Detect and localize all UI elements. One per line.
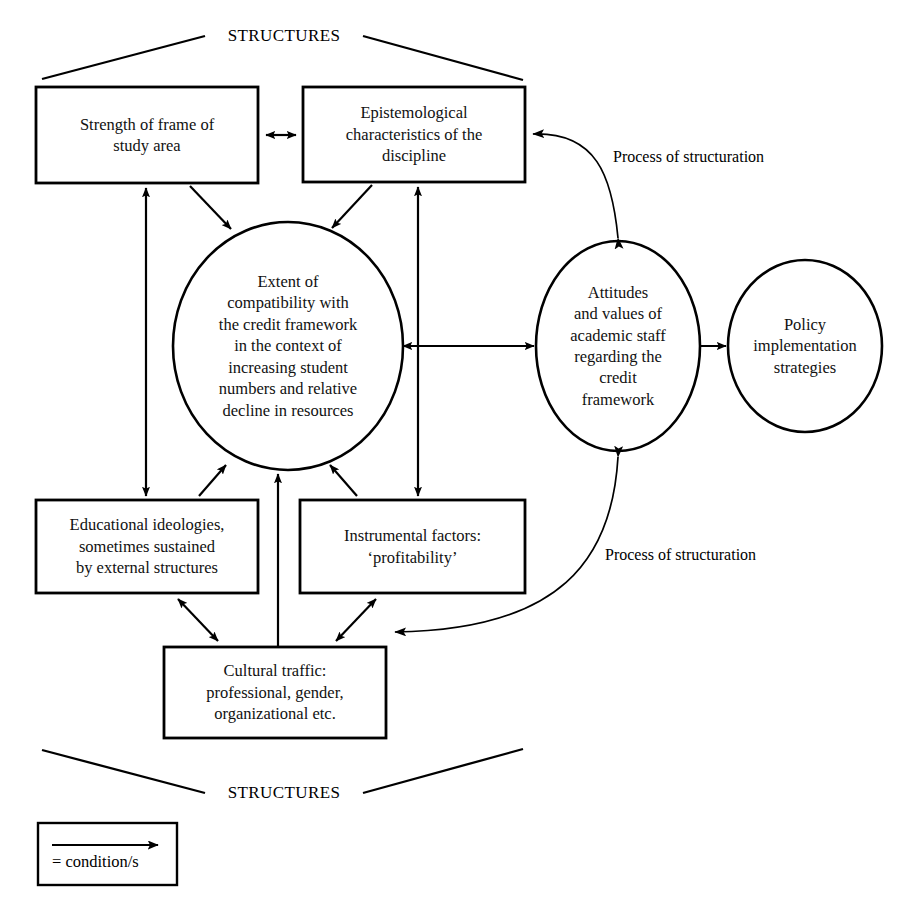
box-label-strength-of-frame: Strength of frame of study area <box>36 87 258 183</box>
bottom-structures-label: STRUCTURES <box>205 783 363 803</box>
edge-label-process-lower: Process of structuration <box>605 546 756 564</box>
ellipse-label-extent-of-compatibility: Extent of compatibility with the credit … <box>173 222 403 470</box>
box-label-educational-ideologies: Educational ideologies, sometimes sustai… <box>36 500 258 593</box>
edge-cultural-educational <box>178 599 218 641</box>
structuration-diagram: STRUCTURES STRUCTURES Strength of frame … <box>0 0 910 905</box>
box-label-epistemological-characteristics: Epistemological characteristics of the d… <box>303 87 525 182</box>
edge-label-process-upper: Process of structuration <box>613 148 764 166</box>
box-label-cultural-traffic: Cultural traffic: professional, gender, … <box>164 647 386 738</box>
edge-curve-process-upper <box>533 134 618 238</box>
edge-cultural-instrumental <box>336 599 376 641</box>
legend-condition-label: = condition/s <box>52 852 139 872</box>
ellipse-label-attitudes-and-values: Attitudes and values of academic staff r… <box>536 241 700 451</box>
top-structures-label: STRUCTURES <box>205 26 363 46</box>
ellipse-label-policy-implementation: Policy implementation strategies <box>728 260 882 432</box>
box-label-instrumental-factors: Instrumental factors: ‘profitability’ <box>300 500 525 593</box>
